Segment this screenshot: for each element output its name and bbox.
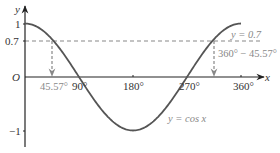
cosine-chart: y x O 1 0.7 −1 45.57° 90° 180° 270° 360°… [0, 0, 280, 153]
y-axis-label: y [14, 3, 20, 15]
y-tick-label-1: 1 [15, 18, 21, 30]
x-tick-label-270: 270° [179, 80, 200, 92]
curve-label: y = cos x [167, 113, 207, 124]
x-axis-label: x [264, 71, 270, 83]
y-tick-label-0.7: 0.7 [5, 35, 19, 47]
x-label-45.57: 45.57° [40, 81, 68, 92]
x-tick-label-180: 180° [123, 80, 144, 92]
origin-label: O [12, 71, 20, 83]
x-tick-label-360: 360° [233, 80, 254, 92]
reference-line-label: y = 0.7 [230, 29, 262, 40]
x-tick-label-90: 90° [72, 80, 87, 92]
y-tick-label-neg1: −1 [9, 125, 21, 137]
solution-2-label: 360° − 45.57° [218, 48, 277, 59]
